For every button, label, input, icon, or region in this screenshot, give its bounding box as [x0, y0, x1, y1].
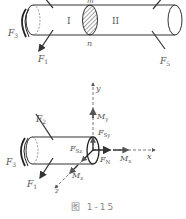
label-F3-bottom: F3: [5, 157, 16, 168]
label-FSz: FSz: [69, 144, 82, 154]
x-axis-label: x: [147, 152, 152, 161]
region-label-II: II: [112, 16, 120, 26]
shaft-right-end: [168, 5, 182, 35]
label-F1-bottom: F1: [26, 179, 37, 190]
region-label-I: I: [67, 16, 71, 26]
label-Mz: Mz: [71, 171, 83, 181]
force-F1-arrow: [39, 30, 53, 51]
label-FN: FN: [99, 155, 111, 165]
label-FSy: FSy: [97, 128, 111, 139]
label-F3-top: F3: [7, 28, 18, 39]
label-F2: F2: [35, 114, 46, 125]
shaft-left-end-back: [33, 5, 40, 35]
label-F5-top: F5: [159, 56, 170, 67]
force-F1-arrow-bottom: [40, 158, 53, 178]
force-F5-line: [152, 31, 165, 49]
bottom-free-body-diagram: y My FSy x FN Mx z FSz Mz F2 F3 F1: [5, 83, 155, 195]
cyl-left-front: [26, 137, 32, 164]
label-F1-top: F1: [37, 54, 48, 65]
figure-caption: 图 1-15: [0, 200, 186, 213]
section-label-m: m: [87, 0, 94, 5]
top-shaft-diagram: m n I II F3 F1 F5: [7, 0, 182, 67]
y-axis-label: y: [95, 84, 101, 93]
section-m-n-hatched: [83, 5, 98, 35]
z-axis-label: z: [54, 187, 59, 195]
torque-F3-arc-2: [25, 9, 29, 37]
figure-canvas: m n I II F3 F1 F5 y My FSy x FN Mx z: [0, 0, 186, 219]
cyl-left-back: [32, 137, 38, 164]
force-top-left-stub: [44, 0, 53, 8]
shaft-left-end-front: [26, 5, 33, 35]
section-label-n: n: [87, 39, 92, 48]
label-Mx: Mx: [119, 154, 132, 164]
label-My: My: [96, 112, 109, 123]
